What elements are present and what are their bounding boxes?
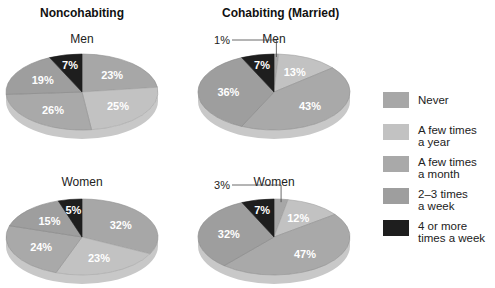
pie-2: 32%23%24%15%5% — [6, 199, 158, 284]
slice-label: 36% — [217, 86, 239, 98]
legend-swatch-few-times-year — [383, 124, 409, 140]
slice-label: 5% — [65, 204, 81, 216]
slice-label: 26% — [42, 104, 64, 116]
slice-callout-label: 1% — [214, 34, 230, 46]
pie-0: 23%25%26%19%7% — [6, 54, 158, 139]
slice-label: 43% — [299, 100, 321, 112]
slice-label: 7% — [254, 59, 270, 71]
slice-label: 15% — [38, 215, 60, 227]
legend-label: A few times a month — [418, 156, 495, 180]
legend-swatch-few-times-month — [383, 156, 409, 172]
legend-swatch-4-or-more — [383, 220, 409, 236]
slice-label: 32% — [110, 219, 132, 231]
legend-item-few-times-month: A few times a month — [383, 156, 495, 186]
pie-1: 1%13%43%36%7% — [198, 34, 350, 139]
slice-label: 7% — [62, 59, 78, 71]
slice-label: 47% — [294, 248, 316, 260]
legend-item-4-or-more: 4 or more times a week — [383, 220, 495, 250]
slice-label: 19% — [32, 74, 54, 86]
slice-label: 25% — [107, 100, 129, 112]
slice-callout-label: 3% — [214, 179, 230, 191]
legend-label: A few times a year — [418, 124, 495, 148]
pie-3: 3%12%47%32%7% — [198, 179, 350, 284]
legend-item-never: Never — [383, 92, 495, 122]
slice-label: 7% — [254, 204, 270, 216]
legend-label: 4 or more times a week — [418, 220, 495, 244]
slice-label: 13% — [284, 66, 306, 78]
legend-item-few-times-year: A few times a year — [383, 124, 495, 154]
slice-label: 24% — [30, 241, 52, 253]
legend-item-2-3-times-week: 2–3 times a week — [383, 188, 495, 218]
legend-swatch-2-3-times-week — [383, 188, 409, 204]
legend-label: Never — [418, 94, 495, 106]
slice-label: 23% — [101, 69, 123, 81]
slice-label: 23% — [88, 252, 110, 264]
slice-label: 32% — [218, 228, 240, 240]
legend-swatch-never — [383, 92, 409, 108]
legend-label: 2–3 times a week — [418, 188, 495, 212]
slice-label: 12% — [287, 212, 309, 224]
